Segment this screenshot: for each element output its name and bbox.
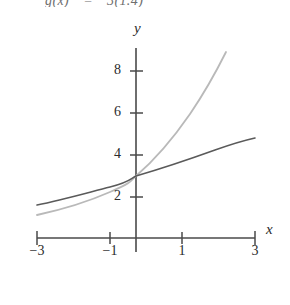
y-axis-label: y (134, 20, 141, 37)
x-tick-label-1: 1 (167, 243, 197, 259)
exponential-functions-figure: g(x)=3(1.4)x y x −3 −1 1 3 8 6 4 2 (0, 0, 290, 305)
y-tick-label-2: 2 (105, 188, 121, 204)
plot-area (0, 0, 290, 305)
curve-f-dark (37, 138, 255, 205)
y-tick-label-4: 4 (105, 146, 121, 162)
x-tick-label--1: −1 (95, 243, 125, 259)
x-tick-label-3: 3 (240, 243, 270, 259)
y-tick-label-6: 6 (105, 104, 121, 120)
y-tick-label-8: 8 (105, 62, 121, 78)
x-tick-label--3: −3 (22, 243, 52, 259)
x-axis-label: x (266, 221, 273, 238)
curve-g-light (37, 52, 226, 215)
